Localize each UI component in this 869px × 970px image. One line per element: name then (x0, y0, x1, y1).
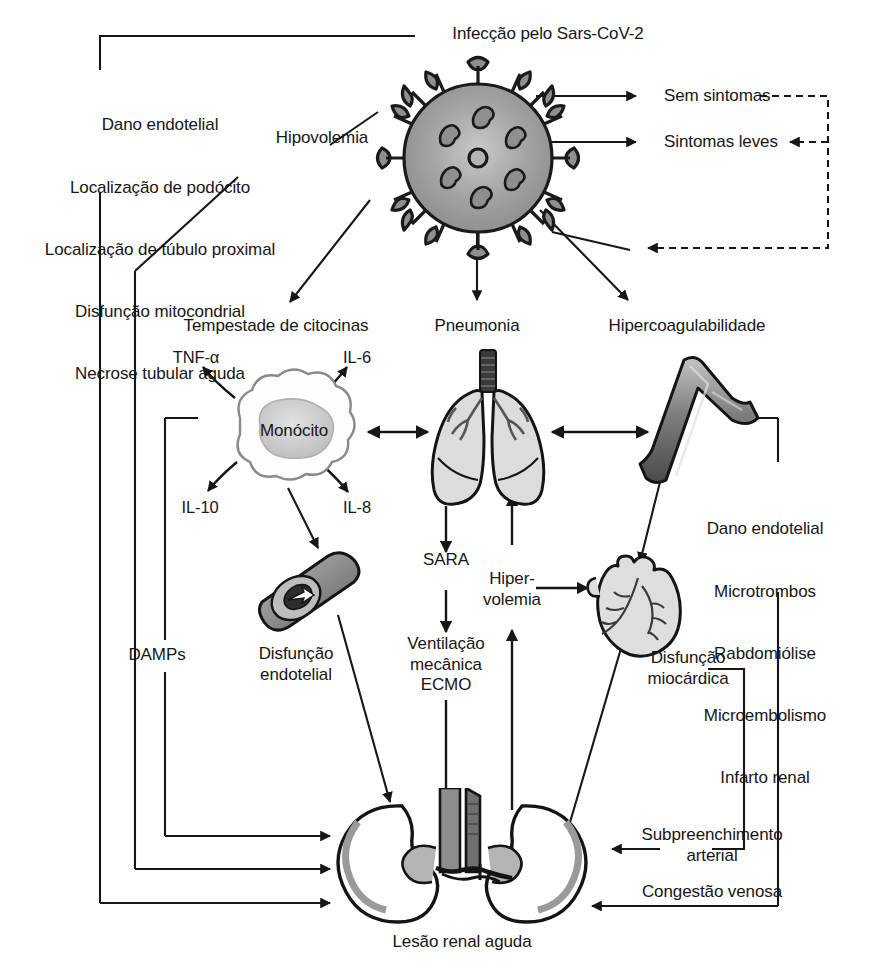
node-hypovolemia: Hipovolemia (276, 128, 368, 149)
right-mechanism-2: Rabdomiólise (704, 644, 826, 665)
blood-vessel-illustration (636, 352, 762, 492)
kidneys-illustration (330, 788, 594, 930)
node-pneumonia: Pneumonia (434, 316, 519, 337)
cytokine-tnf-alpha: TNF-α (173, 347, 220, 367)
cytokine-il-10: IL-10 (181, 497, 218, 517)
node-venous-congestion: Congestão venosa (642, 882, 782, 903)
node-monocyte: Monócito (260, 421, 328, 442)
right-mechanisms-block: Dano endotelial Microtrombos Rabdomiólis… (704, 478, 826, 830)
connector-vessel-to-heart (640, 482, 660, 562)
right-mechanism-1: Microtrombos (704, 582, 826, 603)
left-mechanism-1: Localização de podócito (45, 178, 275, 199)
left-mechanism-2: Localização de túbulo proximal (45, 240, 275, 261)
node-hypervolemia: Hiper- volemia (483, 569, 541, 610)
caption-acute-kidney-injury: Lesão renal aguda (392, 932, 531, 953)
node-damps: DAMPs (128, 645, 185, 666)
diagram-canvas: Infecção pelo Sars-CoV-2 Dano endotelial… (0, 0, 869, 970)
node-mild-symptoms: Sintomas leves (664, 132, 778, 153)
connector-hypervolemia-chain (512, 495, 588, 810)
node-mechanical-ventilation: Ventilação mecânica ECMO (407, 634, 484, 696)
right-mechanism-0: Dano endotelial (704, 519, 826, 540)
node-hypercoagulability: Hipercoagulabilidade (609, 316, 766, 337)
node-sara: SARA (423, 550, 469, 571)
node-cytokine-storm: Tempestade de citocinas (184, 316, 369, 337)
lungs-illustration (424, 348, 552, 506)
sars-cov-2-virus-illustration (368, 48, 588, 268)
left-mechanisms-block: Dano endotelial Localização de podócito … (45, 74, 275, 426)
node-arterial-underfilling: Subpreenchimento arterial (641, 825, 782, 866)
cytokine-il-8: IL-8 (343, 497, 371, 517)
connector-endothelial-to-kidney (338, 615, 390, 802)
left-mechanism-4: Necrose tubular aguda (45, 364, 275, 385)
heart-illustration (584, 552, 688, 658)
right-mechanism-3: Microembolismo (704, 706, 826, 727)
page-title: Infecção pelo Sars-CoV-2 (452, 24, 643, 45)
node-no-symptoms: Sem sintomas (664, 86, 771, 107)
right-mechanism-4: Infarto renal (704, 768, 826, 789)
left-mechanism-0: Dano endotelial (45, 115, 275, 136)
cytokine-il-6: IL-6 (343, 347, 371, 367)
endothelial-tube-illustration (252, 548, 372, 634)
connector-dashed-feedback (648, 96, 828, 248)
node-endothelial-dysfunction: Disfunção endotelial (259, 644, 334, 685)
